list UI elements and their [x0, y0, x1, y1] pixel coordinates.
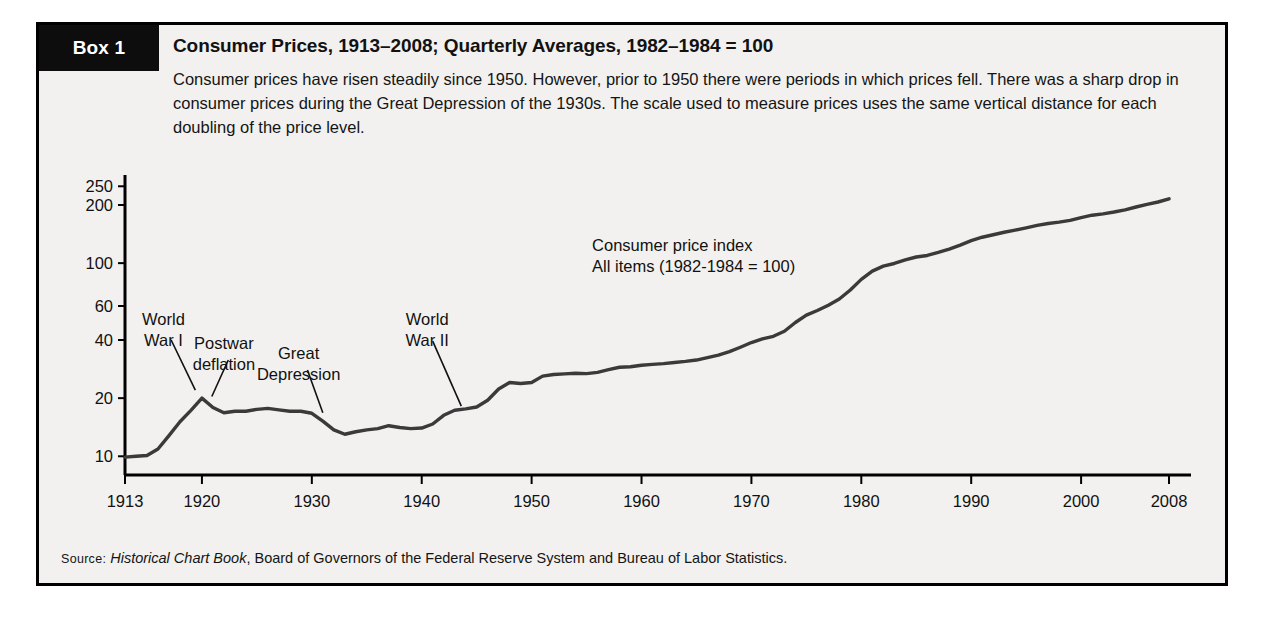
- annotation-great-depression-line2: Depression: [257, 365, 340, 383]
- x-tick-label: 1940: [403, 492, 440, 510]
- source-title: Historical Chart Book: [110, 550, 246, 566]
- box-panel: Box 1 Consumer Prices, 1913–2008; Quarte…: [36, 22, 1228, 586]
- leader-line-world-war-ii: [433, 341, 462, 406]
- x-tick-label: 1930: [293, 492, 330, 510]
- y-tick-label: 250: [85, 177, 113, 195]
- x-tick-label: 2000: [1063, 492, 1100, 510]
- y-tick-label: 20: [95, 389, 113, 407]
- x-tick-label: 1990: [953, 492, 990, 510]
- box-intro-paragraph: Consumer prices have risen steadily sinc…: [173, 67, 1193, 139]
- y-tick-label: 40: [95, 331, 113, 349]
- annotation-postwar-deflation-line2: deflation: [193, 355, 255, 373]
- y-axis-ticks: 10204060100200250: [85, 177, 125, 465]
- source-prefix: Source:: [61, 552, 106, 566]
- annotation-world-war-i-line2: War I: [144, 331, 183, 349]
- source-rest: , Board of Governors of the Federal Rese…: [246, 550, 787, 566]
- x-tick-label: 1980: [843, 492, 880, 510]
- source-note: Source: Historical Chart Book, Board of …: [61, 550, 787, 566]
- annotation-series-label-line1: Consumer price index: [592, 236, 753, 254]
- y-tick-label: 60: [95, 297, 113, 315]
- y-tick-label: 200: [85, 196, 113, 214]
- x-tick-label: 1920: [184, 492, 221, 510]
- x-tick-label: 1970: [733, 492, 770, 510]
- annotation-world-war-ii-line1: World: [406, 310, 449, 328]
- annotation-world-war-ii-line2: War II: [406, 331, 449, 349]
- y-tick-label: 10: [95, 447, 113, 465]
- y-tick-label: 100: [85, 254, 113, 272]
- x-tick-label: 1950: [513, 492, 550, 510]
- annotation-world-war-i-line1: World: [142, 310, 185, 328]
- x-tick-label: 2008: [1151, 492, 1188, 510]
- annotation-great-depression-line1: Great: [278, 344, 320, 362]
- cpi-chart-svg: 10204060100200250 1913192019301940195019…: [53, 165, 1213, 537]
- x-tick-label: 1913: [107, 492, 144, 510]
- figure-root: Box 1 Consumer Prices, 1913–2008; Quarte…: [0, 0, 1264, 636]
- cpi-chart: 10204060100200250 1913192019301940195019…: [53, 165, 1213, 537]
- annotation-series-label-line2: All items (1982-1984 = 100): [592, 257, 795, 275]
- x-tick-label: 1960: [623, 492, 660, 510]
- annotation-postwar-deflation-line1: Postwar: [194, 334, 254, 352]
- box-title: Consumer Prices, 1913–2008; Quarterly Av…: [173, 35, 773, 57]
- x-axis-ticks: 1913192019301940195019601970198019902000…: [107, 475, 1188, 510]
- box-number-tag: Box 1: [39, 25, 159, 71]
